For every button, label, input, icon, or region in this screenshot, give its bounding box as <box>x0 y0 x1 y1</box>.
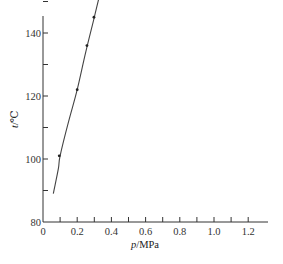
y-tick-label: 80 <box>31 217 42 228</box>
x-tick-label: 1.2 <box>242 226 255 237</box>
x-tick-label: 0 <box>40 226 45 237</box>
line-chart: 00.20.40.60.81.01.280100120140160180200 … <box>0 0 283 264</box>
y-tick-label: 120 <box>25 91 41 102</box>
y-axis-label-unit: /℃ <box>9 110 20 125</box>
y-axis-label: t/℃ <box>9 110 20 128</box>
data-curve <box>53 0 212 194</box>
y-tick-label: 100 <box>25 154 41 165</box>
data-point-marker <box>93 16 96 19</box>
tick-labels: 00.20.40.60.81.01.280100120140160180200 <box>25 0 255 237</box>
x-tick-label: 0.4 <box>105 226 119 237</box>
axes <box>43 16 268 222</box>
data-point-marker <box>76 88 79 91</box>
x-tick-label: 0.8 <box>173 226 186 237</box>
data-point-marker <box>58 154 61 157</box>
x-tick-label: 1.0 <box>207 226 220 237</box>
axis-ticks <box>43 0 248 222</box>
data-point-marker <box>86 44 89 47</box>
x-tick-label: 0.6 <box>139 226 152 237</box>
plot-area <box>53 0 212 194</box>
x-tick-label: 0.2 <box>71 226 84 237</box>
x-axis-label-unit: /MPa <box>136 239 159 250</box>
x-axis-label: p/MPa <box>130 239 159 250</box>
y-tick-label: 140 <box>25 28 41 39</box>
